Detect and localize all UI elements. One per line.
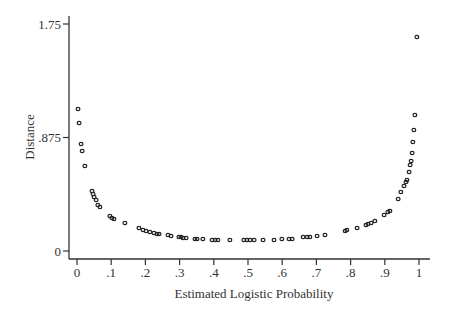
x-tick-label: .6 <box>277 265 287 280</box>
data-point <box>77 121 81 124</box>
x-tick-label: 0 <box>74 265 81 280</box>
x-tick-label: .9 <box>380 265 390 280</box>
data-point <box>409 159 413 162</box>
y-tick-label: .875 <box>38 130 61 145</box>
data-point <box>184 236 188 239</box>
x-axis-title: Estimated Logistic Probability <box>175 286 334 301</box>
x-axis-ticks: 0.1.2.3.4.5.6.7.8.91 <box>74 259 423 280</box>
data-point <box>252 238 256 241</box>
data-point <box>323 233 327 236</box>
data-point <box>272 238 276 241</box>
data-point <box>201 237 205 240</box>
x-tick-label: .8 <box>346 265 356 280</box>
data-point <box>396 197 400 200</box>
data-point <box>137 226 141 229</box>
data-point <box>402 184 406 187</box>
data-point <box>148 230 152 233</box>
x-tick-label: .5 <box>243 265 253 280</box>
data-point <box>382 213 386 216</box>
data-point <box>373 219 377 222</box>
data-point <box>76 107 80 110</box>
data-point <box>261 238 265 241</box>
data-point <box>80 149 84 152</box>
x-tick-label: .1 <box>106 265 116 280</box>
data-point <box>308 235 312 238</box>
data-point <box>355 226 359 229</box>
y-axis-ticks: 0.8751.75 <box>38 17 69 259</box>
data-point <box>408 163 412 166</box>
data-point <box>369 221 373 224</box>
x-tick-label: 1 <box>416 265 423 280</box>
data-point <box>216 238 220 241</box>
data-point <box>280 237 284 240</box>
data-point <box>83 164 87 167</box>
y-axis-title: Distance <box>22 114 37 160</box>
data-points <box>76 35 419 241</box>
data-point <box>407 170 411 173</box>
data-point <box>169 234 173 237</box>
data-point <box>228 238 232 241</box>
x-tick-label: .7 <box>312 265 322 280</box>
data-point <box>94 198 98 201</box>
data-point <box>411 140 415 143</box>
x-tick-label: .4 <box>209 265 219 280</box>
data-point <box>410 151 414 154</box>
data-point <box>290 237 294 240</box>
x-tick-label: .2 <box>141 265 151 280</box>
data-point <box>98 205 102 208</box>
x-tick-label: .3 <box>175 265 185 280</box>
data-point <box>412 128 416 131</box>
data-point <box>123 221 127 224</box>
data-point <box>315 234 319 237</box>
data-point <box>79 142 83 145</box>
data-point <box>248 238 252 241</box>
y-tick-label: 0 <box>55 244 62 259</box>
data-point <box>301 235 305 238</box>
data-point <box>399 190 403 193</box>
y-tick-label: 1.75 <box>38 17 61 32</box>
data-point <box>413 113 417 116</box>
scatter-chart: 0.8751.75 0.1.2.3.4.5.6.7.8.91 Estimated… <box>0 0 452 315</box>
data-point <box>415 35 419 38</box>
